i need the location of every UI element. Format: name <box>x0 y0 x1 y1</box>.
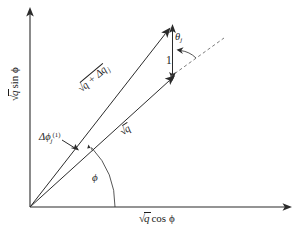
unit-segment-label: 1 <box>166 55 172 67</box>
y-axis-label-rest: sin ϕ <box>8 67 20 88</box>
delta-phi-leader-group <box>62 140 79 151</box>
x-axis-label-rest: cos ϕ <box>151 212 174 224</box>
delta-phi-leader-line <box>62 140 74 148</box>
delta-phi-label: Δϕj(1) <box>39 132 60 145</box>
theta-angle-group <box>177 47 197 58</box>
figure-root: √q sin ϕ √q cos ϕ √q + Δqj √q Δϕj(1) θj … <box>0 0 308 237</box>
axes-group <box>26 7 292 211</box>
sqrt-q-plus-dq-vector-group <box>30 28 171 208</box>
phi-symbol: ϕ <box>92 171 98 183</box>
x-axis-sqrt-glyph: √q <box>139 212 151 224</box>
phi-angle-label: ϕ <box>92 172 98 183</box>
y-axis-sqrt-glyph: √q <box>8 89 20 101</box>
x-axis-label: √q cos ϕ <box>139 212 175 224</box>
theta-angle-arc <box>181 51 197 59</box>
y-axis-label: √q sin ϕ <box>8 39 20 129</box>
delta-phi-superscript: (1) <box>53 131 61 138</box>
vector-diagram-canvas <box>0 0 308 237</box>
delta-phi-symbol: Δϕ <box>39 131 51 142</box>
sqrt-q-plus-dq-vector-arrowhead-icon <box>161 28 170 38</box>
theta-label: θj <box>175 32 182 44</box>
theta-subscript: j <box>180 36 182 44</box>
